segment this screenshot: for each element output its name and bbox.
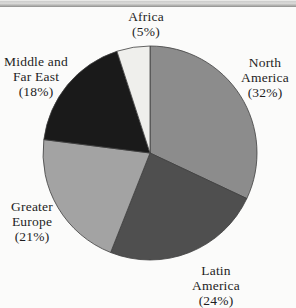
slice-label-line: (5%) bbox=[128, 24, 164, 39]
slice-label-line: Far East bbox=[4, 69, 68, 84]
slice-label-line: America bbox=[192, 278, 240, 293]
slice-label-line: (24%) bbox=[192, 293, 240, 308]
slice-label-middle-far-east: Middle and Far East (18%) bbox=[4, 54, 68, 99]
slice-label-line: Middle and bbox=[4, 54, 68, 69]
slice-label-line: America bbox=[241, 70, 289, 85]
slice-label-line: (21%) bbox=[11, 229, 53, 244]
slice-label-africa: Africa (5%) bbox=[128, 9, 164, 39]
slice-label-line: Europe bbox=[11, 214, 53, 229]
slice-label-greater-europe: Greater Europe (21%) bbox=[11, 199, 53, 244]
slice-label-line: (32%) bbox=[241, 85, 289, 100]
slice-label-line: (18%) bbox=[4, 84, 68, 99]
slice-label-line: Greater bbox=[11, 199, 53, 214]
slice-label-line: Latin bbox=[192, 263, 240, 278]
slice-label-line: North bbox=[241, 55, 289, 70]
slice-label-latin-america: Latin America (24%) bbox=[192, 263, 240, 308]
slice-label-north-america: North America (32%) bbox=[241, 55, 289, 100]
slice-label-line: Africa bbox=[128, 9, 164, 24]
